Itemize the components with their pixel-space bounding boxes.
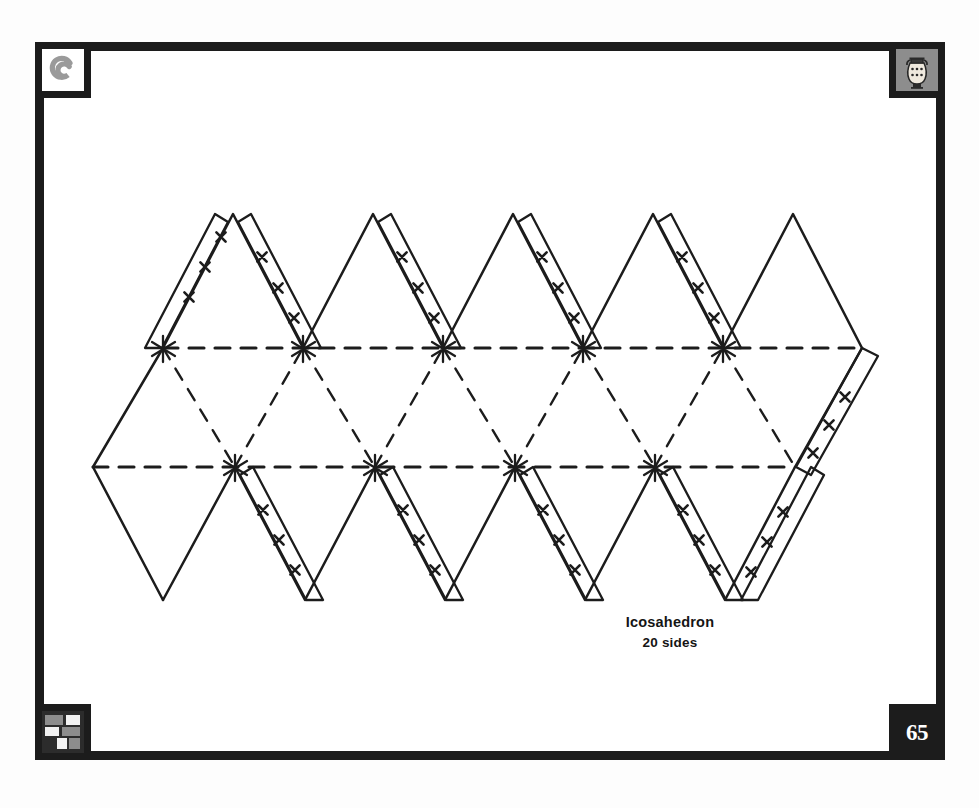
greek-vase-icon bbox=[896, 49, 938, 91]
caption-subtitle: 20 sides bbox=[560, 633, 780, 653]
corner-page-number: 65 bbox=[889, 704, 945, 760]
caption-title: Icosahedron bbox=[560, 612, 780, 633]
decorative-frame bbox=[35, 42, 945, 760]
page-number-label: 65 bbox=[906, 721, 928, 744]
mosaic-tiles-icon bbox=[42, 711, 84, 753]
corner-decoration-bottom-left bbox=[35, 704, 91, 760]
page-canvas: Icosahedron 20 sides bbox=[0, 0, 979, 808]
spiral-icon-glyph bbox=[43, 50, 83, 90]
corner-decoration-top-right bbox=[889, 42, 945, 98]
greek-vase-icon-glyph bbox=[897, 50, 937, 90]
corner-decoration-top-left bbox=[35, 42, 91, 98]
diagram-caption: Icosahedron 20 sides bbox=[560, 612, 780, 653]
mosaic-tiles-icon-glyph bbox=[42, 711, 84, 753]
spiral-icon bbox=[42, 49, 84, 91]
